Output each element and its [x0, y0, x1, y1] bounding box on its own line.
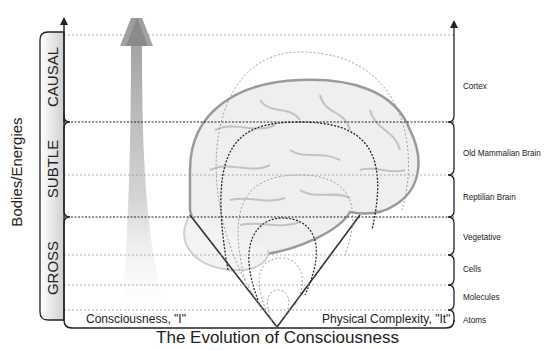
- consciousness-i-label: Consciousness, "I": [86, 312, 186, 326]
- right-axis: [448, 20, 458, 322]
- band-subtle-label: SUBTLE: [44, 129, 62, 209]
- level-old-mammalian-brain-label: Old Mammalian Brain: [463, 148, 541, 158]
- level-atoms-label: Atoms: [463, 315, 486, 325]
- diagram-title: The Evolution of Consciousness: [155, 328, 400, 348]
- level-cells-label: Cells: [463, 264, 481, 274]
- left-axis-label: Bodies/Energies: [8, 117, 26, 227]
- level-vegetative-label: Vegetative: [463, 232, 501, 242]
- band-gross-label: GROSS: [44, 228, 62, 308]
- level-cortex-label: Cortex: [463, 81, 487, 91]
- level-molecules-label: Molecules: [463, 292, 499, 302]
- physical-complexity-it-label: Physical Complexity, "It": [322, 312, 450, 326]
- band-causal-label: CAUSAL: [44, 37, 62, 117]
- level-reptilian-brain-label: Reptilian Brain: [463, 192, 516, 202]
- consciousness-arrow-icon: [120, 18, 170, 325]
